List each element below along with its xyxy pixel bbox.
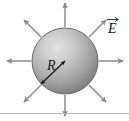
field-arrow-southwest bbox=[24, 85, 41, 102]
field-arrow-northwest bbox=[24, 20, 41, 37]
field-label-group: E bbox=[107, 17, 118, 36]
physics-figure-sphere-efield: R E bbox=[0, 0, 129, 121]
field-arrow-northeast bbox=[89, 20, 106, 37]
field-arrow-southeast bbox=[89, 85, 106, 102]
field-label: E bbox=[107, 21, 117, 36]
sphere-field-diagram-svg: R E bbox=[0, 0, 129, 121]
radius-label: R bbox=[46, 58, 56, 73]
